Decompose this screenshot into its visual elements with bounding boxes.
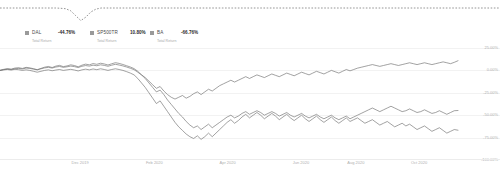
legend-value: -44.76% <box>58 28 75 37</box>
legend: DAL Total Return -44.76% SP500TR Total R… <box>0 28 500 48</box>
x-axis-tick-label: Feb 2020 <box>146 160 163 166</box>
legend-value: 10.80% <box>130 28 146 37</box>
y-axis-tick-label: 0.00% <box>487 67 498 73</box>
x-axis-tick-label: Jun 2020 <box>293 160 309 166</box>
y-axis-labels: 25.00%0.00%-25.00%-50.00%-75.00%-100.00% <box>0 48 500 166</box>
legend-sublabel: Total Return <box>97 37 118 45</box>
x-axis-tick-label: Dec 2019 <box>72 160 89 166</box>
legend-item-dal[interactable]: DAL Total Return -44.76% <box>25 28 51 48</box>
legend-ticker-label: SP500TR <box>97 28 118 37</box>
legend-sublabel: Total Return <box>157 37 176 45</box>
y-axis-tick-label: -50.00% <box>483 112 498 118</box>
legend-value: -66.76% <box>181 28 198 37</box>
legend-item-ba[interactable]: BA Total Return -66.76% <box>150 28 176 48</box>
y-axis-tick-label: -25.00% <box>483 90 498 96</box>
legend-marker-icon <box>150 31 154 35</box>
legend-item-sp500tr[interactable]: SP500TR Total Return 10.80% <box>90 28 118 48</box>
sparkline-strip <box>0 0 500 26</box>
legend-sublabel: Total Return <box>32 37 51 45</box>
x-axis-tick-label: Oct 2020 <box>411 160 427 166</box>
x-axis-tick-label: Aug 2020 <box>347 160 364 166</box>
y-axis-tick-label: 25.00% <box>484 45 498 51</box>
chart-widget: DAL Total Return -44.76% SP500TR Total R… <box>0 0 500 186</box>
legend-ticker-label: DAL <box>32 28 41 37</box>
legend-marker-icon <box>25 31 29 35</box>
x-axis-labels: Dec 2019Feb 2020Apr 2020Jun 2020Aug 2020… <box>0 160 500 174</box>
sparkline-path <box>0 8 500 21</box>
legend-marker-icon <box>90 31 94 35</box>
sparkline-svg <box>0 0 500 26</box>
x-axis-tick-label: Apr 2020 <box>220 160 236 166</box>
legend-ticker-label: BA <box>157 28 163 37</box>
y-axis-tick-label: -75.00% <box>483 135 498 141</box>
